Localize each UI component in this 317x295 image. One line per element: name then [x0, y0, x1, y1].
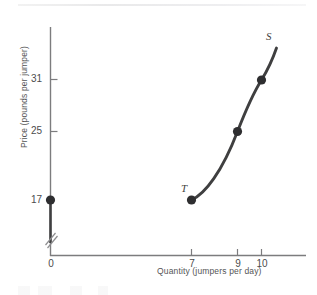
- point-label-T: T: [181, 182, 187, 194]
- data-point-9-25: [233, 127, 242, 136]
- page-bottom-text-fragment: [18, 286, 138, 295]
- x-axis-title: Quantity (jumpers per day): [157, 266, 262, 276]
- data-point-0-17: [46, 195, 55, 204]
- supply-curve-label-S: S: [266, 30, 272, 42]
- y-axis-break-mark-2: [48, 236, 58, 248]
- x-tick-label-0: 0: [41, 258, 61, 269]
- supply-curve-path: [192, 48, 277, 200]
- data-point-10-31: [257, 75, 266, 84]
- y-tick-label-17: 17: [8, 194, 42, 205]
- supply-curve-figure: 31 25 17 0 7 9 10 Price (pounds per jump…: [0, 0, 317, 295]
- data-point-7-17: [187, 195, 196, 204]
- y-axis-title: Price (pounds per jumper): [19, 32, 29, 162]
- chart-plot-area: [0, 0, 317, 295]
